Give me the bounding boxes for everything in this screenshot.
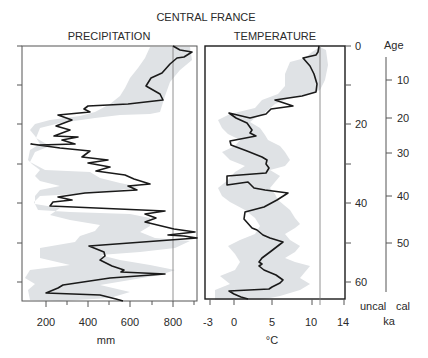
precipitation-age-ticks bbox=[17, 46, 22, 282]
uncal-tick-label: 60 bbox=[355, 276, 367, 288]
chart-figure: CENTRAL FRANCE PRECIPITATION bbox=[0, 0, 428, 358]
figure-title: CENTRAL FRANCE bbox=[156, 11, 255, 23]
uncal-axis-label: uncal bbox=[360, 300, 386, 312]
precipitation-tick-label: 600 bbox=[121, 316, 139, 328]
ka-unit-label: ka bbox=[383, 315, 396, 327]
precipitation-x-ticks bbox=[46, 301, 194, 307]
age-axis-label: Age bbox=[384, 39, 404, 51]
precipitation-title: PRECIPITATION bbox=[68, 30, 151, 42]
precipitation-tick-label: 400 bbox=[79, 316, 97, 328]
cal-tick-label: 10 bbox=[397, 74, 409, 86]
temperature-unit-label: °C bbox=[266, 334, 278, 346]
uncal-tick-label: 40 bbox=[355, 197, 367, 209]
temperature-tick-label: 0 bbox=[231, 316, 237, 328]
temperature-title: TEMPERATURE bbox=[234, 30, 316, 42]
age-cal-axis: 10 20 30 40 50 bbox=[386, 57, 409, 292]
cal-tick-label: 20 bbox=[397, 112, 409, 124]
precipitation-tick-label: 800 bbox=[164, 316, 182, 328]
uncal-tick-label: 0 bbox=[355, 40, 361, 52]
precipitation-envelope bbox=[25, 47, 192, 301]
age-uncal-axis: 0 20 40 60 bbox=[345, 40, 367, 288]
temperature-envelope bbox=[215, 47, 328, 300]
cal-tick-label: 40 bbox=[397, 190, 409, 202]
temperature-panel: TEMPERATURE -3 0 5 10 14 °C bbox=[203, 30, 349, 346]
cal-tick-label: 50 bbox=[397, 237, 409, 249]
cal-axis-label: cal bbox=[396, 300, 410, 312]
temperature-tick-label: 14 bbox=[337, 316, 349, 328]
cal-tick-label: 30 bbox=[397, 147, 409, 159]
precipitation-tick-label: 200 bbox=[37, 316, 55, 328]
temperature-tick-label: 10 bbox=[305, 316, 317, 328]
precipitation-unit-label: mm bbox=[97, 334, 115, 346]
temperature-tick-label: 5 bbox=[269, 316, 275, 328]
temperature-tick-label: -3 bbox=[203, 316, 213, 328]
precipitation-panel: PRECIPITATION 20 bbox=[17, 30, 197, 346]
uncal-tick-label: 20 bbox=[355, 118, 367, 130]
